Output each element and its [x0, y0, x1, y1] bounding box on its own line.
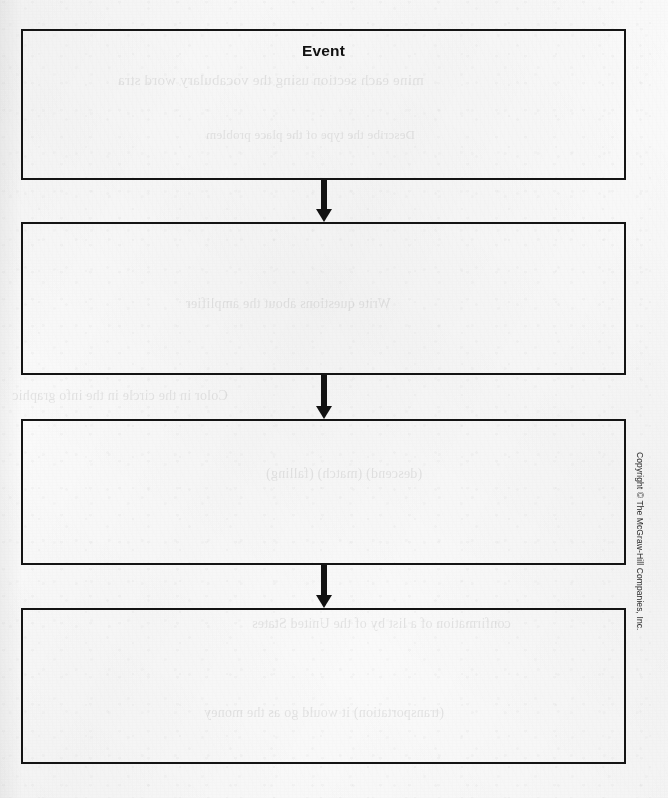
worksheet-page: mine each section using the vocabulary w… [0, 0, 668, 798]
flow-box-2[interactable] [21, 222, 626, 375]
flow-box-3[interactable] [21, 419, 626, 565]
flow-box-1[interactable]: Event [21, 29, 626, 180]
bleed-through-line-4: Color in the circle in the info graphic [12, 388, 228, 404]
flow-arrow-1-icon [316, 180, 332, 222]
flow-box-1-label: Event [23, 42, 624, 60]
copyright-notice: Copyright © The McGraw-Hill Companies, I… [635, 452, 645, 631]
flow-arrow-3-icon [316, 565, 332, 608]
page-gutter-shading [0, 0, 22, 798]
flow-arrow-2-icon [316, 375, 332, 419]
flow-box-4[interactable] [21, 608, 626, 764]
